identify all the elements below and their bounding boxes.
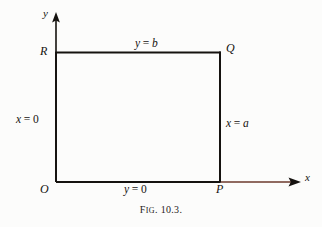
edge-label-top-rhs: b: [152, 37, 158, 49]
edge-label-right-op: =: [231, 117, 243, 129]
caption-prefix-smallcaps: IG: [146, 206, 155, 215]
edge-label-left-op: =: [21, 113, 33, 125]
vertex-label-p: P: [216, 183, 224, 195]
vertex-label-o: O: [40, 183, 49, 195]
edge-label-bottom: y=0: [124, 184, 147, 196]
edge-label-left-rhs: 0: [33, 113, 39, 125]
x-axis-label: x: [305, 172, 310, 183]
edge-label-right: x=a: [226, 118, 249, 130]
edge-label-right-rhs: a: [243, 117, 249, 129]
edge-label-top-op: =: [140, 37, 152, 49]
edge-label-bottom-op: =: [129, 183, 141, 195]
edge-label-left: x=0: [16, 114, 39, 126]
vertex-label-q: Q: [226, 42, 235, 54]
edge-label-top: y=b: [135, 38, 158, 50]
figure-caption: FIG.10.3.: [0, 204, 322, 215]
caption-number: 10.3.: [158, 204, 183, 215]
y-axis-label: y: [43, 8, 48, 19]
figure-container: y x R Q O P y=b y=0 x=0 x=a FIG.10.3.: [0, 0, 322, 227]
edge-label-bottom-rhs: 0: [141, 183, 147, 195]
vertex-label-r: R: [40, 45, 48, 57]
